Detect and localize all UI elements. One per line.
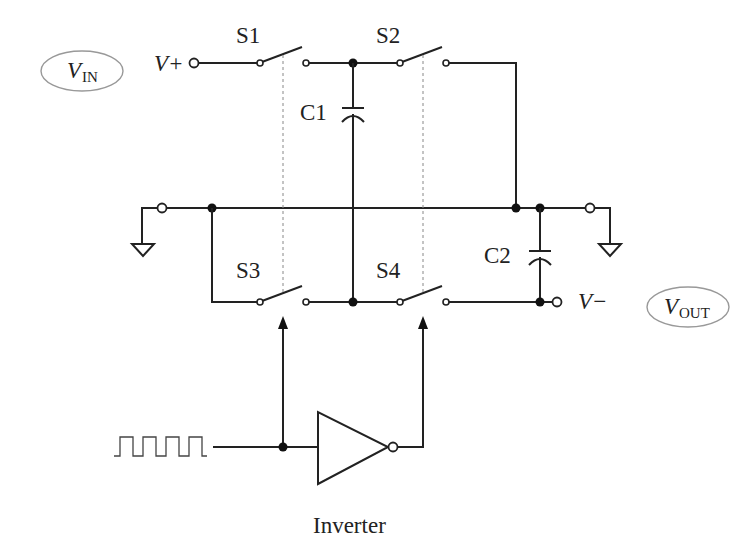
- s4-label: S4: [376, 258, 401, 283]
- c1-label: C1: [300, 100, 327, 125]
- s4-contact-left: [397, 299, 403, 305]
- left-rail-terminal: [158, 204, 167, 213]
- vin-subscript: IN: [82, 69, 98, 85]
- switch-s2-blade: [402, 47, 442, 62]
- vminus-terminal: [553, 298, 562, 307]
- switch-s4-blade: [402, 286, 442, 301]
- right-rail-terminal: [586, 204, 595, 213]
- s2-contact-right: [443, 60, 449, 66]
- junction-c2-bottom: [536, 298, 545, 307]
- junction-clock: [279, 443, 288, 452]
- s3-contact-right: [303, 299, 309, 305]
- wire-s2-rail: [446, 63, 516, 208]
- wire-right-ground: [595, 208, 610, 244]
- vminus-label: V−: [578, 289, 608, 314]
- s1-contact-right: [303, 60, 309, 66]
- junction-rail-s2: [512, 204, 521, 213]
- vout-label-group: V OUT: [647, 287, 729, 327]
- arrow-up-icon-s4: [418, 316, 428, 329]
- vplus-label: V+: [154, 51, 184, 76]
- s2-contact-left: [397, 60, 403, 66]
- vin-label-group: V IN: [41, 51, 123, 91]
- switch-s1-blade: [262, 47, 302, 62]
- switch-s3-blade: [262, 286, 302, 301]
- ground-icon-right: [599, 244, 621, 256]
- s1-contact-left: [257, 60, 263, 66]
- s3-label: S3: [236, 258, 260, 283]
- inverter-triangle-icon: [318, 412, 388, 484]
- clock-square-wave-icon: [114, 437, 207, 456]
- s3-contact-left: [257, 299, 263, 305]
- arrow-up-icon-s3: [278, 316, 288, 329]
- vplus-terminal: [190, 59, 199, 68]
- ground-icon-left: [132, 244, 154, 256]
- c2-label: C2: [484, 243, 511, 268]
- control-line-s2-s4: [398, 326, 423, 447]
- circuit-diagram: V IN V+ S1 S2 C1 C2 S3 S: [0, 0, 754, 558]
- inverter-label: Inverter: [313, 513, 386, 538]
- s1-label: S1: [236, 23, 260, 48]
- inverter-bubble: [389, 443, 398, 452]
- s2-label: S2: [376, 23, 400, 48]
- vout-subscript: OUT: [679, 305, 710, 321]
- s4-contact-right: [443, 299, 449, 305]
- wire-rail-s3: [212, 208, 260, 302]
- wire-left-ground: [142, 208, 158, 244]
- junction-c1-bottom: [349, 298, 358, 307]
